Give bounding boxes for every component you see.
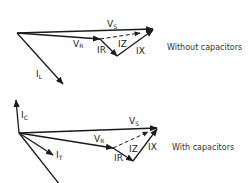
ic-label: IC bbox=[21, 110, 28, 121]
ic-phasor bbox=[16, 100, 19, 133]
diagram-with-capacitors: IC VS VR IR IZ IX IT With capacitors bbox=[16, 100, 234, 183]
vr-label: VR bbox=[73, 39, 83, 49]
vr-phasor bbox=[17, 33, 100, 39]
it-label: IT bbox=[56, 150, 63, 161]
vs-phasor bbox=[17, 29, 153, 33]
diagram-without-capacitors: VS VR IR IZ IX IL Without capacitors bbox=[17, 19, 242, 84]
vr-label: VR bbox=[94, 134, 104, 144]
il-label: IL bbox=[36, 69, 43, 80]
iz-label: IZ bbox=[118, 39, 127, 49]
caption-with-capacitors: With capacitors bbox=[172, 143, 234, 152]
ix-label: IX bbox=[136, 46, 145, 56]
ir-label: IR bbox=[114, 153, 123, 163]
iz-label: IZ bbox=[129, 144, 138, 154]
ir-label: IR bbox=[97, 45, 106, 55]
phasor-diagrams: VS VR IR IZ IX IL Without capacitors IC … bbox=[0, 0, 252, 183]
vs-label: VS bbox=[107, 19, 117, 30]
vs-phasor bbox=[19, 128, 157, 133]
ix-label: IX bbox=[148, 142, 157, 152]
caption-without-capacitors: Without capacitors bbox=[167, 43, 242, 52]
il-phasor bbox=[19, 133, 60, 183]
vs-label: VS bbox=[129, 116, 139, 127]
